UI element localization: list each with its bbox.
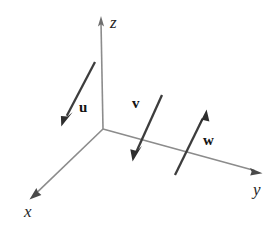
axis-label-x: x [24,203,32,220]
axis-y-arrowhead [250,168,263,176]
vector-v-shaft [136,95,162,152]
vector-w-shaft [175,119,203,175]
axis-label-y: y [253,181,261,198]
axis-label-z: z [110,14,117,31]
axis-z-line [101,22,103,129]
vector-label-u: u [79,100,87,115]
vector-diagram-figure: z x y u v w [0,0,278,230]
vector-diagram-canvas [0,0,278,230]
axes-group [30,16,263,200]
vector-v-arrowhead [130,146,142,161]
vector-w-arrowhead [198,110,209,126]
axis-x [30,129,104,200]
vector-label-w: w [203,133,214,148]
vector-label-v: v [132,96,140,111]
axis-y [103,129,263,176]
vectors-group [61,62,210,175]
axis-x-line [36,129,104,194]
axis-y-line [103,129,255,171]
vector-u [61,62,95,127]
axis-z [98,16,104,129]
